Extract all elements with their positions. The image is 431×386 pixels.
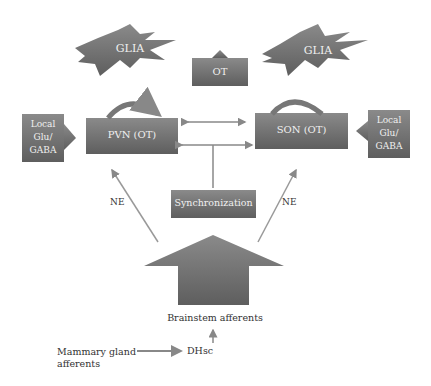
glia-left-label: GLIA <box>100 42 160 55</box>
brainstem-label: Brainstem afferents <box>160 312 270 323</box>
sync-label: Synchronization <box>171 197 256 208</box>
ne-left-label: NE <box>110 197 124 207</box>
local-right-label: LocalGlu/GABA <box>368 114 410 153</box>
glia-right-label: GLIA <box>288 44 348 57</box>
ot-label: OT <box>192 66 248 77</box>
ne-right-label: NE <box>282 197 296 207</box>
pvn-label: PVN (OT) <box>86 129 178 140</box>
local-left-label: LocalGlu/GABA <box>22 118 64 157</box>
mammary-label: Mammary glandafferents <box>57 346 136 370</box>
brainstem-big-arrow <box>144 235 284 305</box>
son-label: SON (OT) <box>255 124 348 135</box>
ot-up-arrow <box>212 50 228 58</box>
dhsc-label: DHsc <box>187 345 213 356</box>
diagram-canvas <box>0 0 431 386</box>
